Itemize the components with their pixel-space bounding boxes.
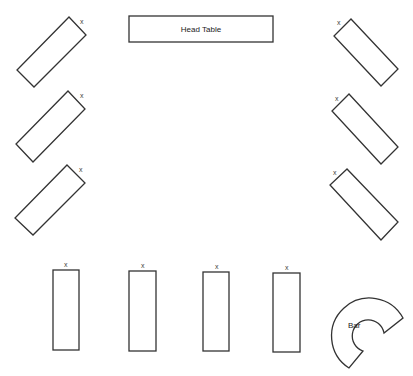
bottom-table-3: [203, 272, 229, 351]
seat-marker: x: [80, 92, 84, 99]
bar-shape: [332, 298, 403, 368]
left-table-1: [17, 17, 86, 87]
seat-marker: x: [337, 19, 341, 26]
bottom-table-1: [53, 270, 79, 350]
right-table-2: [332, 94, 398, 164]
bar: Bar: [332, 298, 403, 368]
bar-label: Bar: [348, 321, 361, 330]
seat-marker: x: [335, 95, 339, 102]
left-table-2: [16, 91, 85, 162]
seat-marker: x: [80, 18, 84, 25]
seat-marker: x: [141, 262, 145, 269]
left-tables: x x x: [15, 17, 86, 235]
right-table-1: [334, 19, 398, 86]
seat-marker: x: [333, 169, 337, 176]
right-table-3: [330, 169, 398, 240]
seat-marker: x: [215, 263, 219, 270]
right-tables: x x x: [330, 19, 398, 240]
floor-plan: Head Table x x x x x x x x x x Bar: [0, 0, 413, 376]
left-table-3: [15, 165, 85, 235]
bottom-table-4: [273, 273, 300, 352]
head-table-label: Head Table: [181, 25, 222, 34]
seat-marker: x: [285, 264, 289, 271]
bottom-tables: x x x x: [53, 261, 300, 352]
bottom-table-2: [129, 271, 156, 351]
seat-marker: x: [79, 166, 83, 173]
seat-marker: x: [64, 261, 68, 268]
head-table: Head Table: [129, 16, 273, 42]
